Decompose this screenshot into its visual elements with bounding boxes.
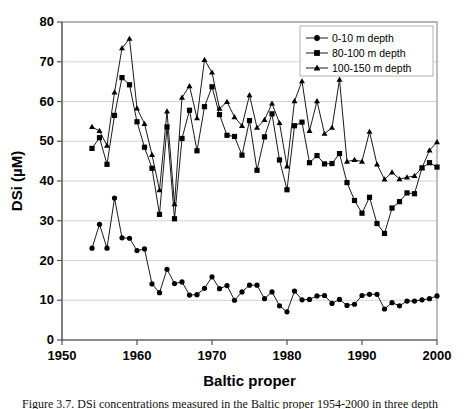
y-tick-label-7: 70 xyxy=(40,54,54,69)
data-point-circle xyxy=(239,289,244,294)
data-point-square xyxy=(329,161,334,166)
data-point-circle xyxy=(299,297,304,302)
data-point-square xyxy=(277,157,282,162)
data-point-square xyxy=(412,191,417,196)
data-point-circle xyxy=(307,297,312,302)
dsi-line-chart: 0102030405060708019501960197019801990200… xyxy=(0,0,468,409)
data-point-square xyxy=(89,146,94,151)
x-axis-title: Baltic proper xyxy=(203,372,296,389)
x-tick-label-1: 1960 xyxy=(123,348,152,363)
data-point-square xyxy=(292,123,297,128)
data-point-square xyxy=(224,133,229,138)
data-point-square xyxy=(134,119,139,124)
data-point-square xyxy=(269,111,274,116)
y-axis: 01020304050607080 xyxy=(40,14,62,347)
data-point-square xyxy=(149,166,154,171)
data-point-circle xyxy=(277,303,282,308)
data-point-square xyxy=(404,190,409,195)
y-tick-label-8: 80 xyxy=(40,14,54,29)
data-point-circle xyxy=(359,293,364,298)
data-point-circle xyxy=(119,235,124,240)
y-tick-label-2: 20 xyxy=(40,253,54,268)
data-point-circle xyxy=(329,301,334,306)
data-point-circle xyxy=(134,248,139,253)
data-point-circle xyxy=(314,293,319,298)
y-tick-label-6: 60 xyxy=(40,94,54,109)
data-point-square xyxy=(359,211,364,216)
data-point-square xyxy=(322,161,327,166)
data-point-square xyxy=(112,113,117,118)
legend-label-2: 100-150 m depth xyxy=(332,62,412,74)
legend: 0-10 m depth80-100 m depth100-150 m dept… xyxy=(300,26,433,76)
data-point-circle xyxy=(187,292,192,297)
data-point-circle xyxy=(262,296,267,301)
data-point-circle xyxy=(194,292,199,297)
data-point-circle xyxy=(337,297,342,302)
data-point-circle xyxy=(352,302,357,307)
data-point-square xyxy=(254,168,259,173)
data-point-circle xyxy=(269,289,274,294)
data-point-square xyxy=(97,135,102,140)
data-point-circle xyxy=(209,274,214,279)
y-tick-label-0: 0 xyxy=(47,332,54,347)
data-point-circle xyxy=(157,290,162,295)
data-point-square xyxy=(142,145,147,150)
data-point-circle xyxy=(344,303,349,308)
data-point-square xyxy=(389,205,394,210)
data-point-square xyxy=(247,118,252,123)
data-point-square xyxy=(239,153,244,158)
data-point-square xyxy=(367,195,372,200)
data-point-circle xyxy=(404,298,409,303)
y-tick-label-4: 40 xyxy=(40,173,54,188)
data-point-square xyxy=(217,112,222,117)
data-point-circle xyxy=(142,246,147,251)
data-point-square xyxy=(314,153,319,158)
y-tick-label-1: 10 xyxy=(40,292,54,307)
data-point-circle xyxy=(389,300,394,305)
data-point-circle xyxy=(419,297,424,302)
data-point-square xyxy=(397,199,402,204)
data-point-square xyxy=(284,187,289,192)
data-point-square xyxy=(209,84,214,89)
data-point-square xyxy=(104,162,109,167)
x-tick-label-5: 2000 xyxy=(423,348,452,363)
data-point-circle xyxy=(232,298,237,303)
data-point-square xyxy=(427,160,432,165)
legend-label-0: 0-10 m depth xyxy=(332,32,394,44)
data-point-circle xyxy=(224,283,229,288)
data-point-square xyxy=(157,212,162,217)
data-point-circle xyxy=(412,298,417,303)
data-point-circle xyxy=(172,281,177,286)
data-point-circle xyxy=(367,292,372,297)
data-point-circle xyxy=(427,296,432,301)
data-point-square xyxy=(337,151,342,156)
data-point-circle xyxy=(397,303,402,308)
figure-container: 0102030405060708019501960197019801990200… xyxy=(0,0,468,409)
data-point-circle xyxy=(247,283,252,288)
data-point-square xyxy=(299,120,304,125)
y-axis-title: DSi (µM) xyxy=(8,151,25,211)
figure-caption-text: Figure 3.7. DSi concentrations measured … xyxy=(22,400,468,409)
data-point-circle xyxy=(284,309,289,314)
data-point-circle xyxy=(89,246,94,251)
data-point-circle xyxy=(374,292,379,297)
x-tick-label-2: 1970 xyxy=(198,348,227,363)
data-point-circle xyxy=(202,286,207,291)
data-point-square xyxy=(194,148,199,153)
data-point-circle xyxy=(322,293,327,298)
data-point-circle xyxy=(97,222,102,227)
data-point-circle xyxy=(112,195,117,200)
x-axis: 195019601970198019902000 xyxy=(48,340,452,363)
figure-caption: Figure 3.7. DSi concentrations measured … xyxy=(0,400,468,409)
data-point-circle xyxy=(164,267,169,272)
data-point-square xyxy=(187,108,192,113)
data-point-square xyxy=(352,198,357,203)
data-point-circle xyxy=(292,289,297,294)
data-point-circle xyxy=(217,286,222,291)
y-tick-label-3: 30 xyxy=(40,213,54,228)
x-tick-label-4: 1990 xyxy=(348,348,377,363)
data-point-square xyxy=(314,50,320,56)
data-point-circle xyxy=(149,281,154,286)
y-tick-label-5: 50 xyxy=(40,133,54,148)
data-point-square xyxy=(307,160,312,165)
